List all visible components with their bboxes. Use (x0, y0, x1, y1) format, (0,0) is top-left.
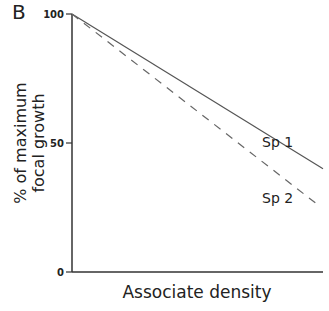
series-sp2-label: Sp 2 (262, 190, 293, 206)
series-sp1-label: Sp 1 (262, 134, 293, 150)
y-axis-label-line2: focal growth (29, 93, 48, 192)
series-sp2-line (72, 14, 318, 205)
x-axis-label: Associate density (122, 282, 271, 302)
y-axis-label-line1: % of maximum (11, 82, 30, 203)
y-tick-0: 0 (57, 267, 64, 278)
y-tick-50: 50 (50, 138, 64, 149)
chart: 100 50 0 Sp 1 Sp 2 Associate density % o… (0, 0, 329, 311)
y-tick-100: 100 (43, 9, 64, 20)
